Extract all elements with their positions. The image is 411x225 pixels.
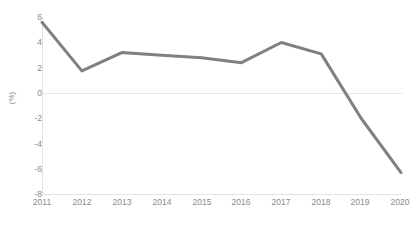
x-tick-label: 2017 [261,197,301,207]
source-caption [6,217,236,225]
x-tick-label: 2013 [102,197,142,207]
x-tick-label: 2019 [340,197,380,207]
series-line [42,22,401,172]
x-tick-label: 2015 [182,197,222,207]
x-tick-label: 2016 [221,197,261,207]
x-tick-label: 2018 [301,197,341,207]
x-tick-label: 2011 [22,197,62,207]
x-tick-label: 2014 [142,197,182,207]
x-tick-label: 2020 [380,197,411,207]
line-chart: (%) 6 4 2 0 -2 -4 -6 -8 2011 2012 2013 2… [0,0,411,225]
x-tick-label: 2012 [62,197,102,207]
series-line-plot [0,0,411,225]
x-axis-tick-labels: 2011 2012 2013 2014 2015 2016 2017 2018 … [0,197,411,211]
